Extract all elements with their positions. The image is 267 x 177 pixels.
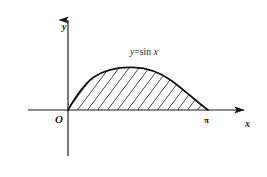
curve-label-equals-sin: =sin xyxy=(134,47,151,57)
origin-label: O xyxy=(55,114,63,125)
curve-equation-label: y=sin x xyxy=(130,48,158,58)
shaded-area-hatching xyxy=(14,48,244,128)
x-axis-label: x xyxy=(245,119,250,129)
sine-area-figure: y x O π y=sin x xyxy=(0,0,267,177)
curve-label-x: x xyxy=(154,47,158,57)
x-tick-label-pi: π xyxy=(204,116,209,125)
y-axis-label: y xyxy=(62,22,66,32)
plot-canvas xyxy=(0,0,267,177)
